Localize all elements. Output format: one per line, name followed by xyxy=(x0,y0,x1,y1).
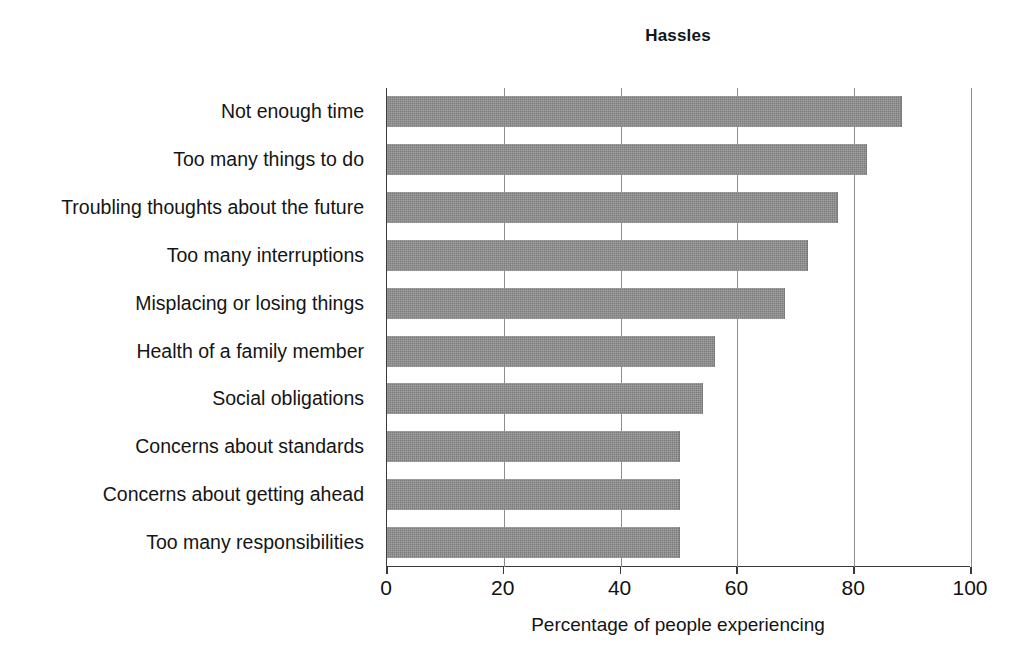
x-tick-mark-80 xyxy=(853,567,855,574)
x-tick-label-40: 40 xyxy=(585,576,655,600)
bar-row xyxy=(387,184,971,232)
bar xyxy=(387,240,808,271)
bar-series xyxy=(387,88,971,567)
chart-title: Hassles xyxy=(386,26,970,46)
bar-row xyxy=(387,136,971,184)
gridline-100 xyxy=(971,88,972,567)
bar-row xyxy=(387,88,971,136)
x-tick-mark-0 xyxy=(386,567,388,574)
category-label: Concerns about standards xyxy=(0,423,375,471)
bar-row xyxy=(387,471,971,519)
category-label: Misplacing or losing things xyxy=(0,280,375,328)
x-tick-label-20: 20 xyxy=(468,576,538,600)
bar-row xyxy=(387,328,971,376)
x-tick-mark-20 xyxy=(503,567,505,574)
bar xyxy=(387,336,715,367)
x-tick-label-100: 100 xyxy=(935,576,1005,600)
bar xyxy=(387,527,680,558)
bar-row xyxy=(387,423,971,471)
bar-row xyxy=(387,375,971,423)
x-tick-mark-100 xyxy=(970,567,972,574)
category-label: Too many things to do xyxy=(0,136,375,184)
category-label: Too many responsibilities xyxy=(0,519,375,567)
x-axis-title: Percentage of people experiencing xyxy=(386,614,970,636)
bar xyxy=(387,288,785,319)
bar xyxy=(387,383,703,414)
category-label: Not enough time xyxy=(0,88,375,136)
category-label: Too many interruptions xyxy=(0,232,375,280)
bar xyxy=(387,144,867,175)
category-label: Concerns about getting ahead xyxy=(0,471,375,519)
x-tick-label-80: 80 xyxy=(818,576,888,600)
x-tick-mark-40 xyxy=(620,567,622,574)
chart-page: Hassles Not enough timeToo many things t… xyxy=(0,0,1023,665)
x-tick-mark-60 xyxy=(736,567,738,574)
bar-row xyxy=(387,280,971,328)
plot-area xyxy=(386,88,970,567)
bar-row xyxy=(387,232,971,280)
category-label: Troubling thoughts about the future xyxy=(0,184,375,232)
bar xyxy=(387,192,838,223)
x-tick-label-0: 0 xyxy=(351,576,421,600)
bar xyxy=(387,479,680,510)
bar xyxy=(387,96,902,127)
category-label: Health of a family member xyxy=(0,328,375,376)
bar-row xyxy=(387,519,971,567)
category-label: Social obligations xyxy=(0,375,375,423)
y-axis-category-labels: Not enough timeToo many things to doTrou… xyxy=(0,88,375,567)
bar xyxy=(387,431,680,462)
x-tick-label-60: 60 xyxy=(701,576,771,600)
